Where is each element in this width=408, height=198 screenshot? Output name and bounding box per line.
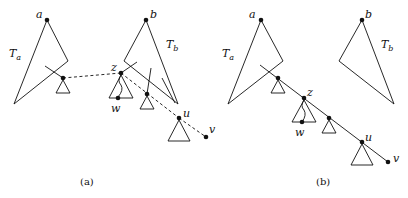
panel-a: a Ta b Tb z w u [9, 8, 216, 187]
label-w: w [295, 126, 305, 139]
subtree-triangle [56, 80, 70, 93]
node-w [300, 120, 305, 125]
label-v: v [393, 152, 400, 165]
path-z-w [302, 100, 305, 122]
label-tb: Tb [166, 38, 178, 53]
label-b: b [150, 8, 157, 21]
node-w [116, 96, 121, 101]
label-w: w [111, 102, 121, 115]
label-tb: Tb [381, 38, 393, 53]
label-u: u [183, 107, 190, 120]
tree-diagram: a Ta b Tb z w u [0, 0, 408, 198]
node-a [259, 18, 264, 23]
label-z: z [306, 86, 313, 99]
tree-ta: a Ta [9, 8, 68, 104]
node-a [45, 18, 50, 23]
subtree-mid-triangle [322, 120, 336, 133]
label-v: v [209, 123, 216, 136]
subtree-u-triangle [168, 120, 190, 141]
tree-ta: a Ta [222, 8, 283, 104]
node-b [144, 18, 149, 23]
subtree-z-triangle [109, 75, 133, 98]
label-a: a [249, 8, 256, 21]
panel-b: a Ta b Tb z w u v (b) [222, 8, 400, 187]
tree-tb: b Tb [121, 8, 178, 104]
caption-b: (b) [316, 176, 330, 187]
label-u: u [365, 131, 372, 144]
path-z-w [118, 75, 122, 97]
label-z: z [110, 61, 117, 74]
subtree-mid-triangle [140, 96, 154, 109]
node-b [360, 18, 365, 23]
dashed-edge-z-u [121, 73, 179, 118]
node-v [386, 160, 391, 165]
label-a: a [36, 8, 43, 21]
caption-a: (a) [80, 176, 94, 187]
label-ta: Ta [9, 47, 21, 62]
subtree-u-triangle [351, 144, 373, 165]
node-v [204, 135, 209, 140]
label-ta: Ta [222, 47, 234, 62]
label-b: b [365, 8, 372, 21]
tree-tb: b Tb [339, 8, 394, 104]
